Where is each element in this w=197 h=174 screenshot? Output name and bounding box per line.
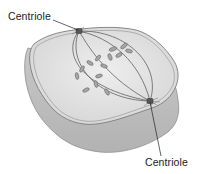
centriole-label-bottom: Centriole	[145, 157, 188, 168]
leader-line-top	[53, 20, 78, 30]
centriole-label-top: Centriole	[8, 11, 51, 22]
cell-mitosis-diagram	[0, 0, 197, 174]
cell-body	[25, 27, 179, 152]
